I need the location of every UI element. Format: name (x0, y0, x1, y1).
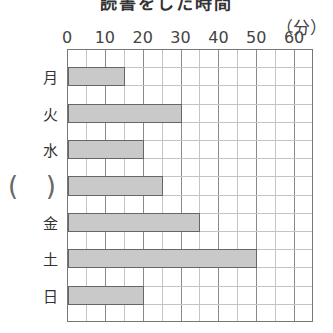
y-category-label: 月 (40, 66, 60, 87)
grid-vline (256, 50, 257, 321)
bar (68, 176, 163, 195)
bar (68, 286, 144, 305)
grid-vline (237, 50, 238, 321)
grid-vline (218, 50, 219, 321)
grid-vline (275, 50, 276, 321)
open-paren: ( (8, 171, 18, 201)
bar (68, 67, 125, 86)
y-category-label: 水 (40, 139, 60, 160)
blank-answer-parentheses: () (0, 171, 64, 201)
bar (68, 140, 144, 159)
x-tick-label: 50 (246, 28, 266, 47)
y-category-label: 日 (40, 284, 60, 305)
chart-title: 読書をした時間 (0, 0, 333, 14)
x-tick-label: 40 (208, 28, 228, 47)
bar (68, 213, 200, 232)
x-tick-label: 30 (170, 28, 190, 47)
grid-vline (181, 50, 182, 321)
chart-grid (67, 49, 313, 322)
x-tick-label: 20 (133, 28, 153, 47)
grid-vline (294, 50, 295, 321)
y-category-label: 土 (40, 248, 60, 269)
x-tick-label: 10 (95, 28, 115, 47)
y-category-label: 火 (40, 102, 60, 123)
grid-vline (199, 50, 200, 321)
close-paren: ) (46, 171, 56, 201)
y-category-label: 金 (40, 211, 60, 232)
bar (68, 249, 257, 268)
x-tick-label: 0 (62, 28, 72, 47)
x-tick-label: 60 (284, 28, 304, 47)
bar (68, 104, 182, 123)
